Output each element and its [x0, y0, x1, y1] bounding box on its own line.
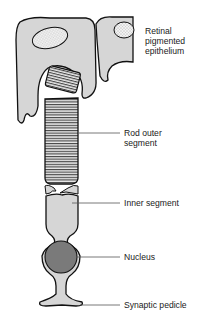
- nucleus: [45, 241, 77, 273]
- rod-cell-body: [40, 185, 83, 306]
- rpe-cell-right: [96, 17, 134, 81]
- rpe-nucleus-right: [114, 22, 134, 38]
- label-inner-segment: Inner segment: [124, 198, 179, 208]
- label-rod-outer-segment: Rod outer segment: [124, 128, 162, 148]
- label-retinal-pigmented-epithelium: Retinal pigmented epithelium: [145, 26, 185, 56]
- rod-outer-segment: [45, 98, 78, 184]
- label-synaptic-pedicle: Synaptic pedicle: [124, 300, 187, 310]
- leader-lines: [72, 133, 120, 305]
- label-nucleus: Nucleus: [124, 252, 155, 262]
